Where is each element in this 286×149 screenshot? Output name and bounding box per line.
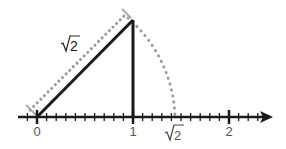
hypotenuse [37, 20, 133, 117]
axis-label-sqrt2-2: 2 [174, 128, 181, 143]
hypotenuse-label-2: 2 [70, 38, 78, 54]
hypotenuse-label: 2 [61, 36, 80, 54]
axis-label-2: 2 [225, 124, 232, 139]
axis-label-0: 0 [33, 124, 40, 139]
axis-label-1: 1 [129, 124, 136, 139]
measure-dotted-line [30, 14, 126, 110]
compass-arc [128, 18, 175, 117]
axis-label-sqrt2: 2 [165, 125, 184, 143]
number-line [18, 110, 273, 124]
sqrt2-diagram: 2 0 1 2 2 [0, 0, 286, 149]
